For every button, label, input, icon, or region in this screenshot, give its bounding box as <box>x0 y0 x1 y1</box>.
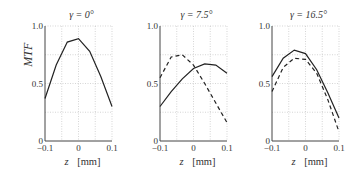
x-tick-label: 0.1 <box>221 143 232 153</box>
x-axis-label: z [mm] <box>290 156 327 167</box>
plot-title: γ = 16.5° <box>290 9 327 20</box>
x-tick-label: −0.1 <box>264 143 280 153</box>
y-tick-label: 0.5 <box>259 79 271 89</box>
x-tick-label: 0 <box>76 143 81 153</box>
y-tick-label: 1.0 <box>259 21 271 31</box>
y-tick-label: 1.0 <box>147 21 159 31</box>
plot-title: γ = 7.5° <box>180 9 212 20</box>
x-axis-label: z [mm] <box>63 156 100 167</box>
y-tick-label: 1.0 <box>32 21 44 31</box>
x-tick-label: 0.1 <box>333 143 344 153</box>
x-tick-label: −0.1 <box>152 143 168 153</box>
y-tick-label: 0.5 <box>147 79 159 89</box>
plot-title: γ = 0° <box>69 9 94 20</box>
x-tick-label: 0 <box>191 143 196 153</box>
x-tick-label: 0 <box>303 143 308 153</box>
x-tick-label: −0.1 <box>37 143 53 153</box>
mtf-chart-figure: 00.51.0−0.100.1z [mm]γ = 0°MTF00.51.0−0.… <box>0 0 362 174</box>
x-tick-label: 0.1 <box>106 143 117 153</box>
x-axis-label: z [mm] <box>178 156 215 167</box>
series-line-solid <box>160 64 227 107</box>
y-axis-label: MTF <box>21 42 35 68</box>
y-tick-label: 0.5 <box>32 79 44 89</box>
